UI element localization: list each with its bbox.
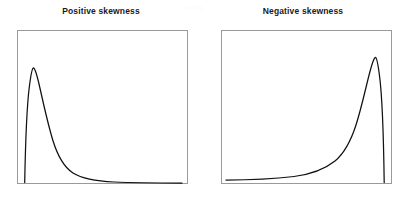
curve-path-positive <box>25 68 182 183</box>
curve-negative-skewness <box>221 30 392 184</box>
panel-title-positive: Positive skewness <box>0 6 202 17</box>
watermark-positive: stats <box>186 4 203 11</box>
panel-negative-skewness: Negative skewness stats <box>202 0 404 200</box>
curve-positive-skewness <box>17 30 188 184</box>
panel-title-negative: Negative skewness <box>202 6 404 17</box>
panel-positive-skewness: Positive skewness stats <box>0 0 202 200</box>
curve-path-negative <box>226 57 384 182</box>
skewness-figure: Positive skewness stats Negative skewnes… <box>0 0 404 200</box>
